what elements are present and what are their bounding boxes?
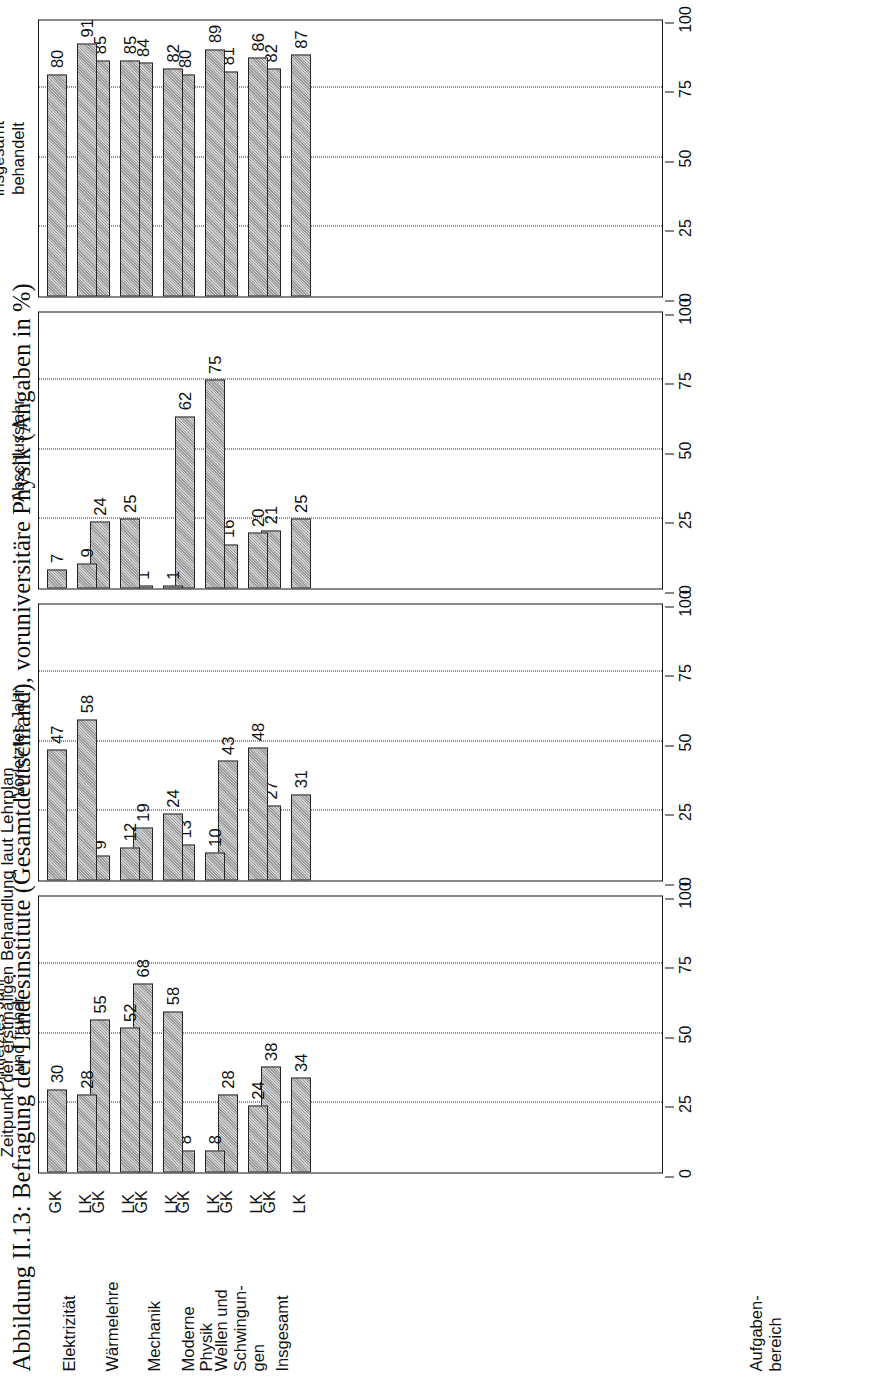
axis-tick-label-75: 75 <box>677 649 695 697</box>
subgroup-label-lk: LK <box>205 1193 223 1213</box>
axis-tick-0 <box>665 592 674 593</box>
bar <box>120 1027 140 1172</box>
bar-value-label: 82 <box>163 44 182 62</box>
axis-tick-100 <box>665 606 674 607</box>
category-label-4: ModernePhysik <box>179 1221 216 1371</box>
bar <box>291 794 311 880</box>
bar <box>205 1150 225 1172</box>
gridline-50 <box>39 448 662 449</box>
bar-value-label: 48 <box>249 722 268 740</box>
subgroup-label-lk: LK <box>163 1193 181 1213</box>
bar-value-label: 87 <box>291 30 310 48</box>
axis-tick-0 <box>665 300 674 301</box>
axis-tick-25 <box>665 814 674 815</box>
bar-value-label: 68 <box>133 959 152 977</box>
category-label-2: Wärmelehre <box>103 1221 122 1371</box>
bar <box>163 1011 183 1172</box>
axis-tick-25 <box>665 230 674 231</box>
axis-tick-0 <box>665 884 674 885</box>
axis-tick-100 <box>665 898 674 899</box>
bar-value-label: 9 <box>78 548 97 557</box>
panel-title-line: Drittletztes Jahr <box>0 895 9 1173</box>
axis-tick-75 <box>665 675 674 676</box>
category-label-5: Wellen undSchwingun-gen <box>212 1221 268 1371</box>
panel-title-line: insgesamt <box>0 19 9 297</box>
bar-value-label: 24 <box>249 1081 268 1099</box>
chart-panel-1: Drittletztes Jahrund früher3055688283828… <box>0 895 833 1173</box>
bar-value-label: 34 <box>291 1053 310 1071</box>
axis-tick-label-25: 25 <box>677 788 695 836</box>
bar-value-label: 12 <box>121 822 140 840</box>
bar <box>120 519 140 589</box>
chart-panel-2: Vorletztes Jahr4791913432758122410483102… <box>0 603 833 881</box>
subgroup-label-gk: GK <box>47 1190 65 1213</box>
bar <box>205 852 225 880</box>
subgroup-label-lk: LK <box>77 1193 95 1213</box>
category-label-3: Mechanik <box>145 1221 164 1371</box>
bar-value-label: 24 <box>163 789 182 807</box>
axis-tick-label-25: 25 <box>677 204 695 252</box>
bar <box>163 68 183 296</box>
axis-tick-75 <box>665 383 674 384</box>
chart-panel-3: Abschlussjahr724162162192517520250255075… <box>0 311 833 589</box>
bar <box>291 519 311 589</box>
bar-value-label: 55 <box>91 995 110 1013</box>
axis-tick-label-25: 25 <box>677 1080 695 1128</box>
bar <box>77 719 97 880</box>
axis-tick-label-50: 50 <box>677 718 695 766</box>
bar-value-label: 19 <box>133 803 152 821</box>
bar-value-label: 10 <box>206 828 225 846</box>
plot-area-2: 47919134327581224104831 <box>38 603 663 881</box>
bar <box>248 1105 268 1172</box>
category-label-1: Elektrizität <box>60 1221 79 1371</box>
bar-value-label: 7 <box>48 553 67 562</box>
axis-tick-label-0: 0 <box>677 273 695 321</box>
panel-title-3: Abschlussjahr <box>9 311 29 589</box>
bar <box>120 60 140 296</box>
bar <box>248 532 268 588</box>
bar-value-label: 30 <box>48 1064 67 1082</box>
axis-tick-50 <box>665 453 674 454</box>
subgroup-label-lk: LK <box>248 1193 266 1213</box>
category-label-line: Wellen und <box>212 1221 231 1371</box>
panel-title-line: und früher <box>9 895 29 1173</box>
category-label-line: Elektrizität <box>60 1221 79 1371</box>
panel-title-2: Vorletztes Jahr <box>9 603 29 881</box>
bar-value-label: 62 <box>176 391 195 409</box>
bar-value-label: 85 <box>121 35 140 53</box>
bar-value-label: 1 <box>163 570 182 579</box>
chart-panel-4: Laut Lehrplaninsgesamtbehandelt808584808… <box>0 19 833 297</box>
axis-tick-label-0: 0 <box>677 857 695 905</box>
axis-tick-label-0: 0 <box>677 565 695 613</box>
bar-value-label: 25 <box>291 494 310 512</box>
bar-value-label: 38 <box>261 1042 280 1060</box>
subgroup-label-lk: LK <box>291 1193 309 1213</box>
axis-tick-50 <box>665 1037 674 1038</box>
bar <box>205 380 225 589</box>
bar-value-label: 91 <box>78 19 97 37</box>
bar-value-label: 89 <box>206 24 225 42</box>
bar <box>248 747 268 880</box>
bar <box>47 749 67 880</box>
bar-value-label: 58 <box>163 986 182 1004</box>
axis-tick-0 <box>665 1176 674 1177</box>
panel-title-line: Abschlussjahr <box>9 311 29 589</box>
gridline-50 <box>39 740 662 741</box>
panel-title-line: Vorletztes Jahr <box>9 603 29 881</box>
category-label-6: Insgesamt <box>273 1221 292 1371</box>
axis-tick-label-50: 50 <box>677 134 695 182</box>
plot-area-4: 808584808182918582898687 <box>38 19 663 297</box>
bar <box>163 585 183 588</box>
bar-value-label: 80 <box>48 49 67 67</box>
plot-area-1: 3055688283828525882434 <box>38 895 663 1173</box>
bar-value-label: 25 <box>121 494 140 512</box>
bar-value-label: 52 <box>121 1003 140 1021</box>
bar <box>120 847 140 880</box>
bar-value-label: 47 <box>48 725 67 743</box>
axis-tick-50 <box>665 745 674 746</box>
bar-value-label: 75 <box>206 355 225 373</box>
axis-tick-100 <box>665 22 674 23</box>
axis-tick-label-100: 100 <box>677 0 695 43</box>
axis-tick-label-50: 50 <box>677 1010 695 1058</box>
bar-value-label: 20 <box>249 508 268 526</box>
